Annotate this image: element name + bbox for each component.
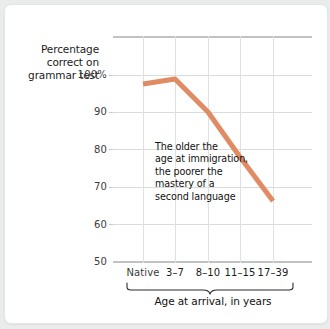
annotation-line-4: mastery of a	[155, 178, 255, 190]
brace-path	[127, 283, 293, 294]
y-tick-label-80: 80	[67, 144, 107, 155]
chart-annotation: The older the age at immigration, the po…	[155, 141, 255, 203]
y-tick-label-90: 90	[67, 106, 107, 117]
y-tick-label-70: 70	[67, 181, 107, 192]
y-tick-label-50: 50	[67, 256, 107, 267]
annotation-line-2: age at immigration,	[155, 153, 255, 165]
x-axis-title: Age at arrival, in years	[113, 295, 313, 307]
annotation-line-1: The older the	[155, 141, 255, 153]
annotation-line-5: second language	[155, 191, 255, 203]
x-tick-label-17-39: 17–39	[249, 267, 297, 278]
x-group-brace-icon	[125, 281, 295, 295]
y-tick-label-100: 100%	[67, 69, 107, 80]
annotation-line-3: the poorer the	[155, 166, 255, 178]
y-axis-title-line-1: Percentage	[7, 43, 99, 56]
y-axis-title-line-2: correct on	[7, 56, 99, 69]
y-tick-label-60: 60	[67, 219, 107, 230]
figure-card: Percentage correct on grammar test 100% …	[4, 4, 328, 324]
